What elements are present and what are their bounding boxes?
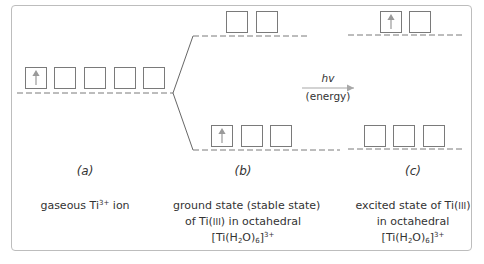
orbital-box — [55, 68, 76, 89]
panel-c-caption: excited state of Ti(III) in octahedral [… — [345, 198, 481, 246]
orbital-box — [271, 126, 292, 147]
orbital-box — [365, 126, 386, 147]
panel-c-t2g-orbitals — [365, 126, 445, 147]
orbital-box — [85, 68, 106, 89]
orbital-box — [257, 12, 278, 33]
orbital-box — [424, 126, 445, 147]
orbital-box — [227, 12, 248, 33]
panel-b-tag: (b) — [223, 164, 263, 178]
panel-c-tag: (c) — [393, 164, 433, 178]
panel-c-eg-orbitals — [381, 12, 431, 33]
orbital-box — [115, 68, 136, 89]
panel-b-eg-orbitals — [227, 12, 278, 33]
panel-b-caption: ground state (stable state) of Ti(III) i… — [173, 198, 313, 246]
orbital-box — [144, 68, 165, 89]
orbital-box — [394, 126, 415, 147]
panel-a-orbitals — [26, 68, 165, 89]
splitting-lines — [173, 36, 193, 150]
energy-label: (energy) — [300, 90, 356, 102]
panel-b-t2g-orbitals — [212, 126, 292, 147]
hv-label: hv — [313, 72, 343, 84]
orbital-box — [242, 126, 263, 147]
orbital-box — [410, 12, 431, 33]
panel-a-caption: gaseous Ti3+ ion — [25, 198, 145, 214]
panel-a-tag: (a) — [65, 164, 105, 178]
